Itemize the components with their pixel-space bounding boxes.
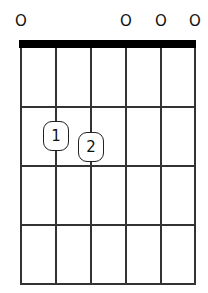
nut xyxy=(19,40,196,48)
open-string-marker-4: O xyxy=(118,12,134,30)
fret-line-3 xyxy=(20,224,196,226)
open-string-marker-5: O xyxy=(153,12,169,30)
fret-line-2 xyxy=(20,165,196,167)
open-string-marker-1: O xyxy=(13,12,29,30)
finger-marker-2: 2 xyxy=(78,132,104,162)
finger-marker-1: 1 xyxy=(43,121,69,151)
fret-line-4 xyxy=(20,283,196,285)
fret-line-1 xyxy=(20,106,196,108)
open-string-marker-6: O xyxy=(187,12,203,30)
